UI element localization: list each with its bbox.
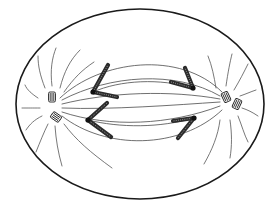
astral-ray [238,116,248,142]
astral-ray [26,116,42,130]
astral-ray [60,50,80,88]
left-centriole-2 [50,111,62,122]
chromosome-right-lower [173,115,197,138]
left-centriole-1 [49,92,56,102]
chromatid-arm [88,103,107,120]
astral-ray [240,90,256,96]
spindle-fiber [62,93,220,104]
astral-ray [51,48,56,86]
centromere [90,89,95,94]
spindle-fibers [60,65,222,141]
astral-ray [204,120,220,164]
astral-ray [230,120,232,158]
cell-illustration [0,0,280,215]
astral-ray [226,54,232,86]
mitosis-diagram: Cell in anaphase of mitosis [0,0,280,215]
astral-ray [64,62,94,92]
astral-rays [22,48,258,168]
astral-ray [234,64,248,90]
right-centriole-2 [232,98,243,110]
chromatid-arm [93,92,117,97]
right-centriole-1 [221,91,232,103]
astral-ray [25,85,38,98]
astral-ray [55,126,62,166]
spindle-fiber [62,102,220,108]
cell-membrane [16,9,264,199]
centromere [190,85,195,90]
chromosome-right-upper [171,68,196,91]
astral-ray [36,124,48,152]
astral-ray [38,56,45,88]
chromosomes [85,65,196,138]
centromere [85,117,90,122]
cell-membrane-outline [16,9,264,199]
astral-ray [242,108,258,116]
centromere [191,115,196,120]
